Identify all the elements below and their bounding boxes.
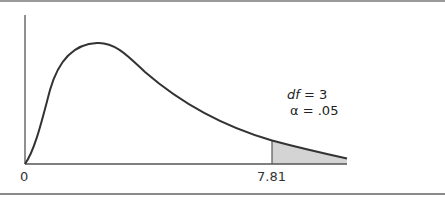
df-value: = 3 bbox=[300, 87, 327, 102]
df-annotation: df = 3 bbox=[287, 88, 327, 102]
bottom-rule bbox=[0, 193, 445, 195]
chi-square-plot bbox=[0, 0, 445, 198]
alpha-annotation: α = .05 bbox=[290, 104, 338, 118]
x-tick-zero: 0 bbox=[20, 170, 28, 183]
df-variable: df bbox=[287, 87, 300, 102]
x-tick-critical-value: 7.81 bbox=[257, 170, 286, 183]
